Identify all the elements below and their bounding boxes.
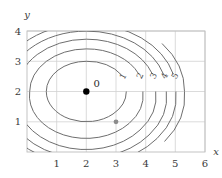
data-points — [83, 88, 118, 124]
evaluation-point[interactable] — [114, 119, 119, 124]
contour-label-group: 1 2 3 4 5 — [117, 71, 180, 81]
minimum-point[interactable] — [83, 88, 89, 94]
contour-label-5: 5 — [169, 71, 180, 80]
y-tick-4: 4 — [15, 26, 21, 37]
contour-level-5 — [0, 24, 176, 165]
x-tick-4: 4 — [143, 158, 149, 169]
grid-lines — [27, 31, 205, 152]
contour-label-3: 3 — [148, 71, 159, 80]
x-tick-2: 2 — [83, 158, 89, 169]
y-tick-3: 3 — [15, 56, 21, 67]
contour-lines — [0, 24, 185, 165]
x-tick-labels: 1 2 3 4 5 6 — [54, 158, 209, 169]
y-tick-2: 2 — [15, 86, 21, 97]
contour-label-2: 2 — [134, 71, 145, 80]
y-tick-1: 1 — [15, 116, 21, 127]
x-axis-label: x — [213, 146, 219, 157]
y-axis-label: y — [23, 9, 30, 20]
x-tick-3: 3 — [113, 158, 119, 169]
contour-label-0: 0 — [94, 78, 100, 89]
y-tick-labels: 1 2 3 4 — [15, 26, 21, 128]
x-tick-1: 1 — [54, 158, 60, 169]
contour-label-1: 1 — [117, 71, 128, 80]
contour-plot-figure: 1 2 3 4 5 0 1 2 3 4 5 6 1 2 3 4 — [0, 0, 222, 178]
x-tick-5: 5 — [172, 158, 178, 169]
x-tick-6: 6 — [202, 158, 208, 169]
plot-svg: 1 2 3 4 5 0 1 2 3 4 5 6 1 2 3 4 — [0, 0, 222, 178]
